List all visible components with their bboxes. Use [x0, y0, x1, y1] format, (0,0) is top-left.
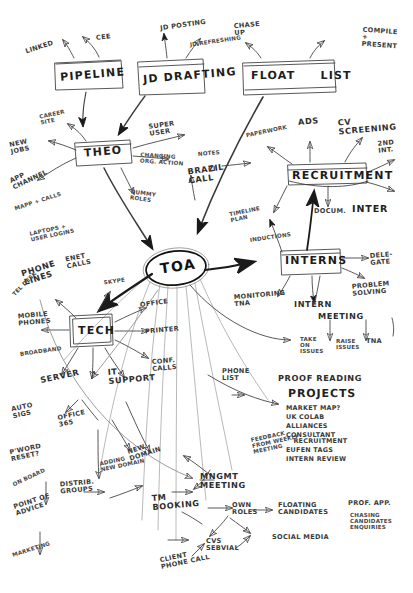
- box-tech[interactable]: TECH: [78, 325, 115, 337]
- label-chasing-candidates[interactable]: CHASING CANDIDATES ENQUIRIES: [350, 514, 392, 532]
- label-projects[interactable]: PROJECTS: [288, 388, 356, 400]
- label-distrib-groups[interactable]: DISTRIB. GROUPS: [59, 479, 95, 496]
- projects-list: MARKET MAP? UK COLAB ALLIANCES CONSULTAN…: [286, 405, 411, 465]
- label-take-on-issues[interactable]: TAKE ON ISSUES: [300, 338, 323, 356]
- label-raise-issues[interactable]: RAISE ISSUES: [336, 340, 359, 352]
- box-recruitment[interactable]: RECRUITMENT: [292, 170, 393, 182]
- label-prof-app[interactable]: PROF. APP.: [348, 500, 391, 507]
- label-mngmt-meeting[interactable]: MNGMT MEETING: [200, 472, 246, 489]
- label-tm-booking[interactable]: TM BOOKING: [151, 490, 200, 511]
- label-ads[interactable]: ADS: [298, 116, 320, 126]
- label-intern[interactable]: INTERN: [294, 300, 332, 309]
- label-inter[interactable]: INTER: [352, 205, 388, 215]
- label-docum[interactable]: DOCUM.: [314, 208, 346, 215]
- project-item-5[interactable]: INTERN REVIEW: [286, 456, 411, 463]
- mindmap-canvas: LINKED CEE PIPELINE JD POSTING JD REFRES…: [0, 0, 413, 593]
- project-item-4[interactable]: EUFEN TAGS: [286, 447, 411, 454]
- label-delegate[interactable]: DELE- GATE: [369, 251, 393, 267]
- label-own-roles[interactable]: OWN ROLES: [232, 502, 258, 516]
- label-phone-list[interactable]: PHONE LIST: [222, 368, 249, 382]
- label-meeting[interactable]: MEETING: [318, 312, 364, 321]
- label-tna[interactable]: TNA: [366, 338, 382, 345]
- label-mobile-phones[interactable]: MOBILE PHONES: [17, 311, 51, 328]
- label-proof-reading[interactable]: PROOF READING: [278, 374, 362, 383]
- box-interns[interactable]: INTERNS: [285, 255, 347, 267]
- label-conf-calls[interactable]: CONF. CALLS: [151, 357, 177, 373]
- label-cvs-sebvial[interactable]: CVS SEBVIAL: [206, 538, 239, 552]
- label-ci[interactable]: CI: [208, 166, 216, 174]
- project-item-1[interactable]: UK COLAB: [286, 414, 411, 421]
- label-floating-candidates[interactable]: FLOATING CANDIDATES: [278, 502, 328, 516]
- project-item-0[interactable]: MARKET MAP?: [286, 405, 411, 412]
- label-chase-up[interactable]: CHASE UP: [233, 21, 260, 37]
- project-item-2[interactable]: ALLIANCES: [286, 423, 411, 430]
- label-social-media[interactable]: SOCIAL MEDIA: [272, 534, 329, 541]
- label-compile-present[interactable]: COMPILE + PRESENT: [361, 27, 398, 50]
- label-second-int[interactable]: 2ND INT.: [377, 139, 395, 154]
- label-it-support[interactable]: IT SUPPORT: [107, 364, 156, 385]
- box-float-list[interactable]: FLOAT LIST: [251, 70, 352, 82]
- project-item-3[interactable]: CONSULTANT RECRUITMENT: [286, 432, 411, 445]
